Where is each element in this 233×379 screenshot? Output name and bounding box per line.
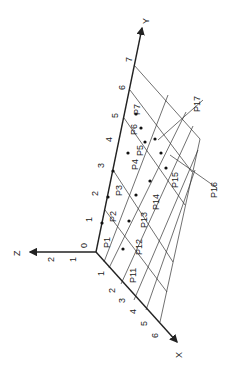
- svg-text:P2: P2: [108, 211, 118, 222]
- svg-text:1: 1: [68, 257, 78, 262]
- svg-text:P5: P5: [135, 145, 145, 156]
- diagram-canvas: 0 1 2 3 4 5 6 7 Y 1 2 3 4 5 6 X 1 2 Z P1…: [0, 0, 233, 379]
- y-tick: 5: [110, 113, 120, 118]
- y-axis: [96, 28, 142, 252]
- svg-text:P6: P6: [129, 124, 139, 135]
- y-tick: 2: [90, 191, 100, 196]
- svg-text:2: 2: [107, 288, 117, 293]
- svg-text:P17: P17: [192, 96, 202, 112]
- y-tick: 6: [117, 85, 127, 90]
- axes: [30, 28, 177, 342]
- y-tick: 7: [124, 57, 134, 62]
- y-tick: 1: [84, 217, 94, 222]
- y-tick: 4: [104, 137, 114, 142]
- x-axis-ticks: 1 2 3 4 5 6 X: [96, 271, 184, 358]
- point-labels: P1 P2 P3 P4 P5 P6 P7 P11 P12 P13 P14 P15…: [102, 96, 219, 283]
- svg-text:P13: P13: [139, 212, 149, 228]
- y-axis-label: Y: [141, 18, 151, 24]
- svg-text:6: 6: [150, 333, 160, 338]
- svg-text:P11: P11: [128, 268, 138, 283]
- y-tick: 3: [96, 163, 106, 168]
- svg-text:P16: P16: [209, 182, 219, 198]
- svg-text:P12: P12: [134, 239, 144, 255]
- coordinate-diagram: 0 1 2 3 4 5 6 7 Y 1 2 3 4 5 6 X 1 2 Z P1…: [0, 0, 233, 379]
- svg-text:3: 3: [117, 298, 127, 303]
- svg-text:4: 4: [128, 309, 138, 314]
- svg-text:5: 5: [139, 321, 149, 326]
- x-axis: [96, 252, 177, 342]
- svg-text:P15: P15: [170, 172, 180, 188]
- svg-text:P7: P7: [132, 104, 142, 115]
- y-tick: 0: [79, 243, 89, 248]
- z-axis-label: Z: [12, 250, 22, 256]
- svg-text:2: 2: [46, 257, 56, 262]
- svg-text:P1: P1: [102, 237, 112, 248]
- svg-text:P3: P3: [114, 185, 124, 196]
- svg-text:P14: P14: [151, 194, 161, 210]
- svg-text:P4: P4: [130, 159, 140, 170]
- x-axis-label: X: [174, 352, 184, 358]
- svg-text:1: 1: [96, 271, 106, 276]
